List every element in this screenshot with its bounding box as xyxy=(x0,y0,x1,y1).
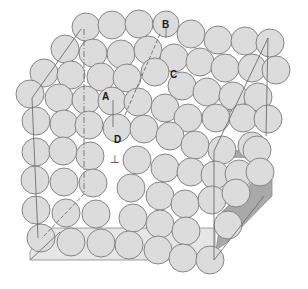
crystal-lattice-diagram: A B C D ⊥ xyxy=(0,0,308,289)
label-b: B xyxy=(162,19,169,30)
label-d: D xyxy=(114,134,121,145)
perpendicular-symbol: ⊥ xyxy=(110,153,120,166)
label-c: C xyxy=(170,69,177,80)
label-a: A xyxy=(102,91,109,102)
